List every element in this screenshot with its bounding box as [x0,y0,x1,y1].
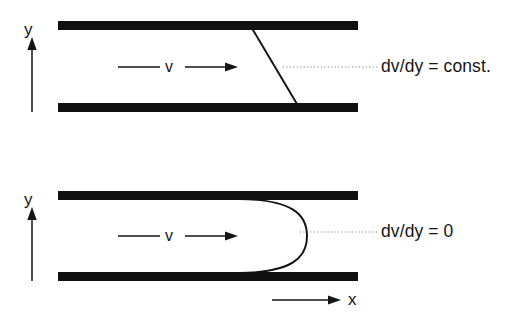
flow-profile-figure: y v dv/dy = const. y v dv/dy = 0 x [0,0,521,322]
top-panel-annotation: dv/dy = const. [381,58,491,76]
x-axis-label: x [348,291,357,308]
top-panel-flow-arrow [118,62,238,71]
top-panel-upper-plate [58,21,358,30]
top-panel-flow-label: v [165,59,173,75]
top-panel-lower-plate [58,103,358,112]
bottom-panel-upper-plate [58,191,358,200]
bottom-panel-annotation: dv/dy = 0 [381,223,453,241]
parabolic-velocity-profile [240,199,307,273]
bottom-panel-flow-label: v [165,228,173,244]
top-panel-y-axis-label: y [24,21,33,38]
top-panel-y-axis-arrow [27,37,36,112]
bottom-panel-y-axis-label: y [24,191,33,208]
figure-canvas [0,0,521,322]
bottom-panel-lower-plate [58,272,358,281]
x-axis-arrow [272,295,341,304]
bottom-panel-flow-arrow [118,231,238,240]
top-panel-group [27,21,377,112]
bottom-panel-y-axis-arrow [27,207,36,281]
bottom-panel-group [27,191,377,305]
